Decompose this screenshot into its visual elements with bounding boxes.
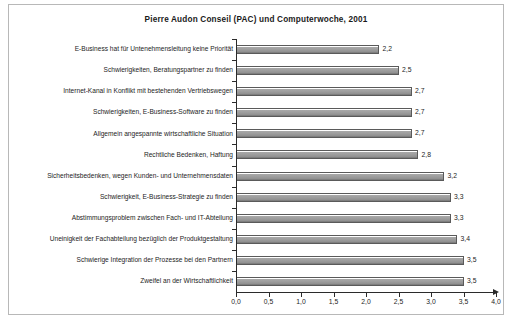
bar-value-label: 3,3 (454, 194, 463, 201)
bar-row: E-Business hat für Untenehmensleitung ke… (9, 39, 503, 60)
y-axis-tick (232, 60, 236, 61)
bar (236, 193, 451, 202)
bar-track: 2,7 (236, 81, 424, 102)
x-axis-tick (301, 293, 302, 297)
x-axis-tick-label: 2,5 (394, 299, 403, 306)
y-axis-tick (232, 229, 236, 230)
category-label: E-Business hat für Untenehmensleitung ke… (23, 46, 233, 53)
bar (236, 108, 412, 117)
bar-row: Sicherheitsbedenken, wegen Kunden- und U… (9, 166, 503, 187)
category-label: Zweifel an der Wirtschaftlichkeit (23, 278, 233, 285)
bar-value-label: 2,7 (415, 130, 424, 137)
x-axis-tick (236, 293, 237, 297)
bar-row: Internet-Kanal in Konflikt mit bestehend… (9, 81, 503, 102)
y-axis-tick (232, 166, 236, 167)
bar (236, 150, 418, 159)
x-axis-tick (334, 293, 335, 297)
bar-track: 2,7 (236, 123, 424, 144)
x-axis-tick-label: 3,5 (459, 299, 468, 306)
x-axis-tick (399, 293, 400, 297)
bar-row: Schwierige Integration der Prozesse bei … (9, 250, 503, 271)
category-label: Schwierige Integration der Prozesse bei … (23, 257, 233, 264)
y-axis-tick (232, 271, 236, 272)
bar-track: 2,2 (236, 39, 392, 60)
bar-value-label: 3,4 (461, 236, 470, 243)
bar-track: 2,7 (236, 102, 424, 123)
bar-value-label: 2,7 (415, 88, 424, 95)
x-axis-tick (464, 293, 465, 297)
x-axis-tick (496, 293, 497, 297)
bar-row: Uneinigkeit der Fachabteilung bezüglich … (9, 229, 503, 250)
bar-track: 3,3 (236, 208, 463, 229)
bar-row: Allgemein angespannte wirtschaftliche Si… (9, 123, 503, 144)
bar (236, 45, 379, 54)
x-axis-tick (366, 293, 367, 297)
bar-value-label: 2,5 (402, 67, 411, 74)
bar-value-label: 3,5 (467, 278, 476, 285)
bar (236, 214, 451, 223)
category-label: Sicherheitsbedenken, wegen Kunden- und U… (23, 173, 233, 180)
x-axis-tick-label: 4,0 (491, 299, 500, 306)
bar-track: 3,5 (236, 271, 476, 292)
category-label: Allgemein angespannte wirtschaftliche Si… (23, 131, 233, 138)
y-axis-tick (232, 144, 236, 145)
bar-track: 3,3 (236, 187, 463, 208)
x-axis-tick (431, 293, 432, 297)
bar-value-label: 3,5 (467, 257, 476, 264)
y-axis-line (236, 39, 237, 292)
bar-row: Schwierigkeiten, E-Business-Software zu … (9, 102, 503, 123)
y-axis-tick (232, 123, 236, 124)
category-label: Abstimmungsproblem zwischen Fach- und IT… (23, 215, 233, 222)
bar-row: Zweifel an der Wirtschaftlichkeit3,5 (9, 271, 503, 292)
bar-track: 3,2 (236, 166, 457, 187)
y-axis-tick (232, 187, 236, 188)
bar-row: Schwierigkeit, E-Business-Strategie zu f… (9, 187, 503, 208)
y-axis-tick (232, 208, 236, 209)
chart-figure: Pierre Audon Conseil (PAC) und Computerw… (8, 4, 504, 315)
bar (236, 235, 457, 244)
bar (236, 277, 464, 286)
bar-track: 3,5 (236, 250, 476, 271)
category-label: Internet-Kanal in Konflikt mit bestehend… (23, 88, 233, 95)
category-label: Uneinigkeit der Fachabteilung bezüglich … (23, 236, 233, 243)
bar-value-label: 2,2 (383, 46, 392, 53)
bar (236, 256, 464, 265)
y-axis-tick (232, 81, 236, 82)
bar-track: 2,5 (236, 60, 411, 81)
x-axis-tick-label: 2,0 (361, 299, 370, 306)
bar-value-label: 2,7 (415, 109, 424, 116)
bar-value-label: 3,3 (454, 215, 463, 222)
x-axis-tick-label: 1,0 (296, 299, 305, 306)
bar (236, 87, 412, 96)
x-axis-tick-label: 3,0 (426, 299, 435, 306)
bar-row: Abstimmungsproblem zwischen Fach- und IT… (9, 208, 503, 229)
category-label: Schwierigkeiten, Beratungspartner zu fin… (23, 67, 233, 74)
y-axis-tick (232, 250, 236, 251)
y-axis-tick (232, 39, 236, 40)
x-axis-tick-label: 1,5 (329, 299, 338, 306)
plot-area: E-Business hat für Untenehmensleitung ke… (9, 5, 503, 314)
category-label: Rechtliche Bedenken, Haftung (23, 152, 233, 159)
bar-row: Schwierigkeiten, Beratungspartner zu fin… (9, 60, 503, 81)
x-axis-tick (269, 293, 270, 297)
bar-value-label: 2,8 (422, 152, 431, 159)
bar-value-label: 3,2 (448, 173, 457, 180)
category-label: Schwierigkeiten, E-Business-Software zu … (23, 109, 233, 116)
bar-track: 2,8 (236, 144, 431, 165)
x-axis-tick-label: 0,5 (264, 299, 273, 306)
bar (236, 129, 412, 138)
y-axis-tick (232, 102, 236, 103)
category-label: Schwierigkeit, E-Business-Strategie zu f… (23, 194, 233, 201)
bar-row: Rechtliche Bedenken, Haftung2,8 (9, 144, 503, 165)
x-axis-tick-label: 0,0 (231, 299, 240, 306)
bar (236, 172, 444, 181)
bar-track: 3,4 (236, 229, 470, 250)
bar (236, 66, 399, 75)
